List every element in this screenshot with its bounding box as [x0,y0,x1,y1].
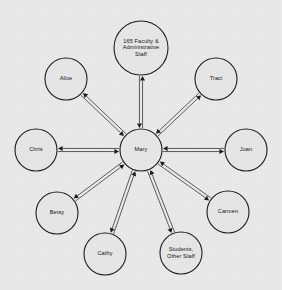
node-cathy[interactable]: Cathy [84,233,126,275]
node-label-faculty: Administrative [123,44,160,50]
arrow-mary-to-carmen [158,164,209,200]
node-joan[interactable]: Joan [225,129,267,171]
arrow-mary-to-faculty [140,76,145,128]
arrow-mary-to-joan [163,149,224,154]
arrow-chris-to-mary [58,149,119,154]
node-betsy[interactable]: Betsy [36,192,78,234]
node-carmen[interactable]: Carmen [207,191,249,233]
node-chris[interactable]: Chris [15,129,57,171]
node-label-chris: Chris [29,146,43,152]
node-label-alice: Alice [60,75,73,81]
edge-mary-alice [81,93,126,136]
node-label-faculty: 165 Faculty & [123,38,159,44]
arrow-students-to-mary [150,170,175,232]
nodes-layer: 165 Faculty &AdministrativeStaffAliceTra… [15,21,267,275]
node-label-students: Students, [169,246,194,252]
node-label-joan: Joan [240,146,253,152]
node-traci[interactable]: Traci [195,58,237,100]
arrow-alice-to-mary [81,95,124,136]
node-faculty[interactable]: 165 Faculty &AdministrativeStaff [114,21,168,75]
node-label-students: Other Staff [167,253,195,259]
arrow-mary-to-chris [58,146,119,151]
arrow-mary-to-traci [158,95,201,136]
arrow-mary-to-betsy [74,162,123,199]
node-students[interactable]: Students,Other Staff [160,232,202,274]
edge-mary-traci [156,93,201,136]
arrow-carmen-to-mary [160,162,211,198]
edge-mary-students [148,170,175,233]
arrow-mary-to-cathy [110,170,132,232]
arrow-mary-to-students [148,171,173,233]
node-alice[interactable]: Alice [45,58,87,100]
arrow-mary-to-alice [83,93,126,134]
arrow-cathy-to-mary [114,171,136,233]
node-label-faculty: Staff [135,51,147,57]
edge-mary-carmen [158,162,211,201]
edge-mary-joan [163,146,224,154]
arrow-traci-to-mary [156,93,199,134]
edge-mary-cathy [110,170,136,233]
network-diagram: 165 Faculty &AdministrativeStaffAliceTra… [0,0,282,290]
node-label-mary: Mary [135,146,148,152]
arrow-faculty-to-mary [137,76,142,128]
node-mary[interactable]: Mary [120,129,162,171]
node-label-carmen: Carmen [218,208,239,214]
arrow-betsy-to-mary [76,164,125,201]
edge-mary-betsy [74,162,125,201]
node-label-cathy: Cathy [97,250,112,256]
diagram-canvas: 165 Faculty &AdministrativeStaffAliceTra… [0,0,282,290]
node-label-betsy: Betsy [50,209,65,215]
edge-mary-chris [58,146,119,154]
edge-mary-faculty [137,76,145,128]
arrow-joan-to-mary [163,146,224,151]
node-label-traci: Traci [210,75,223,81]
